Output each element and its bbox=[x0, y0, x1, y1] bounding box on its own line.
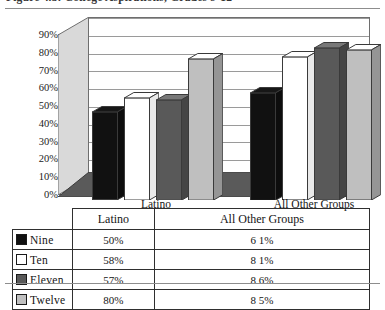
bar-nine-all-other-groups bbox=[250, 87, 285, 201]
figure-caption-text: Figure 4.3: College Aspirations, Grades … bbox=[6, 0, 336, 3]
table-value-cell: 8 1% bbox=[154, 250, 369, 270]
legend-cell-ten: Ten bbox=[13, 250, 73, 270]
bar-twelve-latino bbox=[188, 53, 223, 201]
table-body: Nine50%6 1%Ten58%8 1%Eleven57%8 6%Twelve… bbox=[13, 230, 370, 310]
y-tick-90: 90% bbox=[14, 30, 58, 40]
figure-body: 90%80%70%60%50%40%30%20%10%0% LatinoAll … bbox=[0, 12, 385, 282]
bar-shape bbox=[250, 87, 285, 201]
table-row: Twelve80%8 5% bbox=[13, 290, 370, 310]
y-tick-0: 0% bbox=[14, 190, 58, 200]
legend-swatch-icon bbox=[16, 294, 27, 305]
table-row: Nine50%6 1% bbox=[13, 230, 370, 250]
bar-nine-latino bbox=[92, 106, 127, 200]
legend-cell-eleven: Eleven bbox=[13, 270, 73, 290]
y-tick-30: 30% bbox=[14, 137, 58, 147]
bar-shape bbox=[282, 51, 317, 200]
bar-shape bbox=[188, 53, 223, 201]
bar-shape bbox=[156, 94, 191, 201]
legend-swatch-icon bbox=[16, 254, 27, 265]
y-tick-60: 60% bbox=[14, 83, 58, 93]
bar-eleven-all-other-groups bbox=[314, 42, 349, 200]
bar-shape bbox=[314, 42, 349, 200]
bar-shape bbox=[346, 44, 381, 201]
y-tick-10: 10% bbox=[14, 172, 58, 182]
legend-label: Nine bbox=[30, 234, 54, 246]
y-tick-70: 70% bbox=[14, 66, 58, 76]
bar-ten-all-other-groups bbox=[282, 51, 317, 200]
table-value-cell: 80% bbox=[73, 290, 155, 310]
gridline-80 bbox=[89, 36, 369, 37]
bar-shape bbox=[124, 92, 159, 201]
header-rule bbox=[5, 8, 380, 9]
bar-twelve-all-other-groups bbox=[346, 44, 381, 201]
legend-cell-twelve: Twelve bbox=[13, 290, 73, 310]
legend-label: Ten bbox=[30, 254, 48, 266]
y-tick-80: 80% bbox=[14, 48, 58, 58]
table-value-cell: 8 5% bbox=[154, 290, 369, 310]
table-value-cell: 6 1% bbox=[154, 230, 369, 250]
y-axis: 90%80%70%60%50%40%30%20%10%0% bbox=[12, 12, 58, 197]
table-column-header: All Other Groups bbox=[154, 209, 369, 230]
bar-ten-latino bbox=[124, 92, 159, 201]
table-corner-cell bbox=[13, 209, 73, 230]
y-tick-50: 50% bbox=[14, 101, 58, 111]
table-row: Ten58%8 1% bbox=[13, 250, 370, 270]
chart-plot-area bbox=[58, 12, 376, 197]
legend-swatch-icon bbox=[16, 234, 27, 245]
table-value-cell: 58% bbox=[73, 250, 155, 270]
table-column-header: Latino bbox=[73, 209, 155, 230]
y-tick-40: 40% bbox=[14, 119, 58, 129]
table-row: Eleven57%8 6% bbox=[13, 270, 370, 290]
footer-rule bbox=[5, 283, 380, 284]
gridline-90 bbox=[89, 18, 369, 19]
bar-eleven-latino bbox=[156, 94, 191, 201]
data-table: LatinoAll Other Groups Nine50%6 1%Ten58%… bbox=[12, 208, 370, 310]
y-tick-20: 20% bbox=[14, 154, 58, 164]
bar-shape bbox=[92, 106, 127, 200]
table-value-cell: 57% bbox=[73, 270, 155, 290]
legend-label: Twelve bbox=[30, 294, 65, 306]
table-value-cell: 8 6% bbox=[154, 270, 369, 290]
legend-cell-nine: Nine bbox=[13, 230, 73, 250]
table-header-row: LatinoAll Other Groups bbox=[13, 209, 370, 230]
figure-caption: Figure 4.3: College Aspirations, Grades … bbox=[6, 0, 336, 5]
table-value-cell: 50% bbox=[73, 230, 155, 250]
chart-left-wall bbox=[58, 17, 89, 195]
